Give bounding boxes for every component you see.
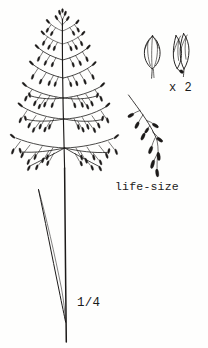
botanical-drawing [0,0,208,348]
culm-axis [62,19,66,342]
reduction-scale-label: 1/4 [77,297,100,310]
magnification-label: x 2 [169,82,192,94]
spikelet-closed [144,36,160,78]
illustration-plate: life-size x 2 1/4 [0,0,208,348]
life-size-label: life-size [115,181,179,193]
panicle-branch-figure [127,95,163,177]
whole-plant-figure [10,8,120,342]
spikelet-open [173,34,189,77]
leaf-blade [39,190,66,323]
spikelet-detail-figure [144,34,189,79]
